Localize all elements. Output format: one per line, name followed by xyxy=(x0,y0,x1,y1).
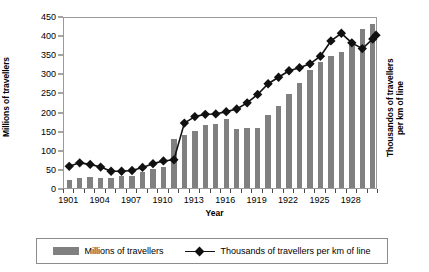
line-marker xyxy=(180,118,189,127)
x-tick-mark xyxy=(325,189,326,193)
y-tick-label: 300 xyxy=(41,70,56,79)
y-axis-title-right: Thousandos of travellers per km of line xyxy=(386,22,406,194)
line-marker xyxy=(106,167,115,176)
legend-item-bars: Millions of travellers xyxy=(53,246,163,256)
x-tick-mark xyxy=(241,189,242,193)
x-tick-mark xyxy=(293,189,294,193)
y-tick-label: 350 xyxy=(41,51,56,60)
x-tick-mark xyxy=(147,189,148,193)
x-tick-mark xyxy=(283,189,284,193)
y-tick-label: 250 xyxy=(41,89,56,98)
line-marker xyxy=(127,166,136,175)
x-tick-label: 1913 xyxy=(184,195,204,205)
x-tick-mark xyxy=(251,189,252,193)
line-marker xyxy=(138,163,147,172)
legend-item-line: Thousands of travellers per km of line xyxy=(185,246,370,256)
legend-label-bars: Millions of travellers xyxy=(84,246,163,256)
x-tick-mark xyxy=(178,189,179,193)
x-tick-label: 1910 xyxy=(152,195,172,205)
x-tick-mark xyxy=(367,189,368,193)
y-tick-label: 100 xyxy=(41,146,56,155)
bar-swatch-icon xyxy=(53,247,79,255)
line-marker xyxy=(201,110,210,119)
x-tick-label: 1907 xyxy=(121,195,141,205)
line-diamond-icon xyxy=(185,247,215,256)
x-tick-mark xyxy=(94,189,95,193)
x-tick-mark xyxy=(157,189,158,193)
x-tick-mark xyxy=(63,189,64,193)
x-axis-title: Year xyxy=(0,208,429,218)
x-tick-mark xyxy=(136,189,137,193)
chart-legend: Millions of travellers Thousands of trav… xyxy=(36,238,388,264)
x-tick-mark xyxy=(210,189,211,193)
x-tick-mark xyxy=(84,189,85,193)
line-marker xyxy=(86,160,95,169)
x-tick-mark xyxy=(272,189,273,193)
x-tick-label: 1901 xyxy=(58,195,78,205)
line-marker xyxy=(75,158,84,167)
x-tick-label: 1928 xyxy=(341,195,361,205)
line-marker xyxy=(159,156,168,165)
line-marker xyxy=(284,66,293,75)
x-tick-mark xyxy=(262,189,263,193)
x-tick-mark xyxy=(126,189,127,193)
x-tick-mark xyxy=(314,189,315,193)
line-series xyxy=(64,18,378,190)
x-tick-mark xyxy=(220,189,221,193)
line-marker xyxy=(211,109,220,118)
plot-area xyxy=(63,17,377,189)
line-marker xyxy=(96,162,105,171)
x-tick-label: 1925 xyxy=(309,195,329,205)
chart-figure: Millions of travellers Thousandos of tra… xyxy=(0,0,429,272)
x-tick-mark xyxy=(346,189,347,193)
x-tick-mark xyxy=(189,189,190,193)
line-marker xyxy=(65,162,74,171)
legend-label-line: Thousands of travellers per km of line xyxy=(220,246,370,256)
line-marker xyxy=(148,159,157,168)
x-tick-mark xyxy=(335,189,336,193)
line-marker xyxy=(274,73,283,82)
line-marker xyxy=(222,107,231,116)
y-tick-label: 50 xyxy=(46,165,56,174)
y-tick-label: 0 xyxy=(51,185,56,194)
x-tick-mark xyxy=(168,189,169,193)
x-tick-mark xyxy=(377,189,378,193)
line-marker xyxy=(190,112,199,121)
line-path xyxy=(69,33,376,171)
x-tick-mark xyxy=(356,189,357,193)
x-tick-label: 1916 xyxy=(215,195,235,205)
line-marker xyxy=(117,167,126,176)
y-tick-label: 200 xyxy=(41,108,56,117)
line-marker xyxy=(295,63,304,72)
x-tick-label: 1919 xyxy=(247,195,267,205)
x-tick-mark xyxy=(73,189,74,193)
line-marker xyxy=(232,104,241,113)
y-tick-label: 150 xyxy=(41,127,56,136)
y-axis: 050100150200250300350400450 xyxy=(0,17,63,189)
x-tick-label: 1904 xyxy=(90,195,110,205)
x-tick-mark xyxy=(199,189,200,193)
line-marker xyxy=(169,155,178,164)
x-tick-label: 1922 xyxy=(278,195,298,205)
y-tick-label: 400 xyxy=(41,32,56,41)
x-tick-mark xyxy=(115,189,116,193)
plot-inner xyxy=(64,18,376,188)
y-tick-label: 450 xyxy=(41,13,56,22)
x-tick-mark xyxy=(105,189,106,193)
x-tick-mark xyxy=(304,189,305,193)
x-tick-mark xyxy=(230,189,231,193)
